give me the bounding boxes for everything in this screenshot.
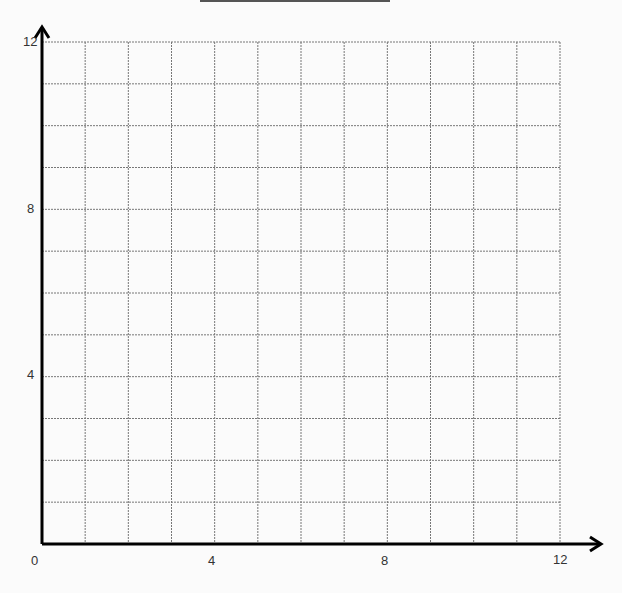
y-tick-4: 4 (27, 367, 34, 382)
x-tick-8: 8 (381, 553, 388, 568)
x-tick-12: 12 (553, 552, 567, 567)
x-tick-4: 4 (208, 553, 215, 568)
y-tick-8: 8 (27, 201, 34, 216)
y-tick-12: 12 (23, 34, 37, 49)
origin-label: 0 (31, 553, 38, 568)
coordinate-grid (0, 0, 622, 593)
